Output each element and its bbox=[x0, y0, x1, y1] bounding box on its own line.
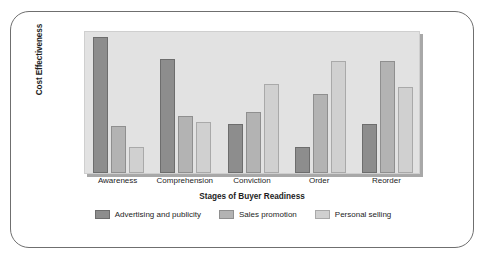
legend-swatch-icon bbox=[315, 210, 330, 219]
x-tick-label-reorder: Reorder bbox=[372, 176, 401, 185]
plot-inner bbox=[85, 32, 419, 173]
chart-legend: Advertising and publicitySales promotion… bbox=[11, 210, 475, 219]
bar bbox=[228, 124, 243, 173]
legend-item: Personal selling bbox=[315, 210, 391, 219]
bar bbox=[295, 147, 310, 173]
y-axis-title: Cost Effectiveness bbox=[35, 5, 44, 115]
bar bbox=[93, 37, 108, 173]
bar bbox=[111, 126, 126, 173]
bar bbox=[398, 87, 413, 173]
x-tick-label-order: Order bbox=[309, 176, 329, 185]
legend-label: Personal selling bbox=[335, 210, 391, 219]
bar-group bbox=[362, 32, 413, 173]
bar-group bbox=[295, 32, 346, 173]
legend-label: Advertising and publicity bbox=[115, 210, 201, 219]
legend-label: Sales promotion bbox=[239, 210, 297, 219]
bar bbox=[313, 94, 328, 173]
legend-item: Advertising and publicity bbox=[95, 210, 201, 219]
bar bbox=[129, 147, 144, 173]
figure-card: Cost Effectiveness AwarenessComprehensio… bbox=[10, 11, 474, 248]
bar bbox=[362, 124, 377, 173]
x-tick-label-conviction: Conviction bbox=[233, 176, 270, 185]
legend-swatch-icon bbox=[95, 210, 110, 219]
bar bbox=[178, 116, 193, 173]
bar bbox=[264, 84, 279, 173]
bar-group bbox=[93, 32, 144, 173]
bar bbox=[160, 59, 175, 173]
legend-item: Sales promotion bbox=[219, 210, 297, 219]
bar bbox=[196, 122, 211, 173]
x-tick-label-comprehension: Comprehension bbox=[157, 176, 213, 185]
bar bbox=[331, 61, 346, 173]
x-axis-tick-labels: AwarenessComprehensionConvictionOrderReo… bbox=[84, 176, 420, 190]
legend-swatch-icon bbox=[219, 210, 234, 219]
bar-group bbox=[228, 32, 279, 173]
x-tick-label-awareness: Awareness bbox=[98, 176, 137, 185]
bar bbox=[380, 61, 395, 173]
plot-panel bbox=[84, 31, 420, 174]
bar bbox=[246, 112, 261, 173]
bar-chart: Cost Effectiveness AwarenessComprehensio… bbox=[11, 12, 475, 249]
bar-group bbox=[160, 32, 211, 173]
x-axis-title: Stages of Buyer Readiness bbox=[84, 192, 420, 201]
